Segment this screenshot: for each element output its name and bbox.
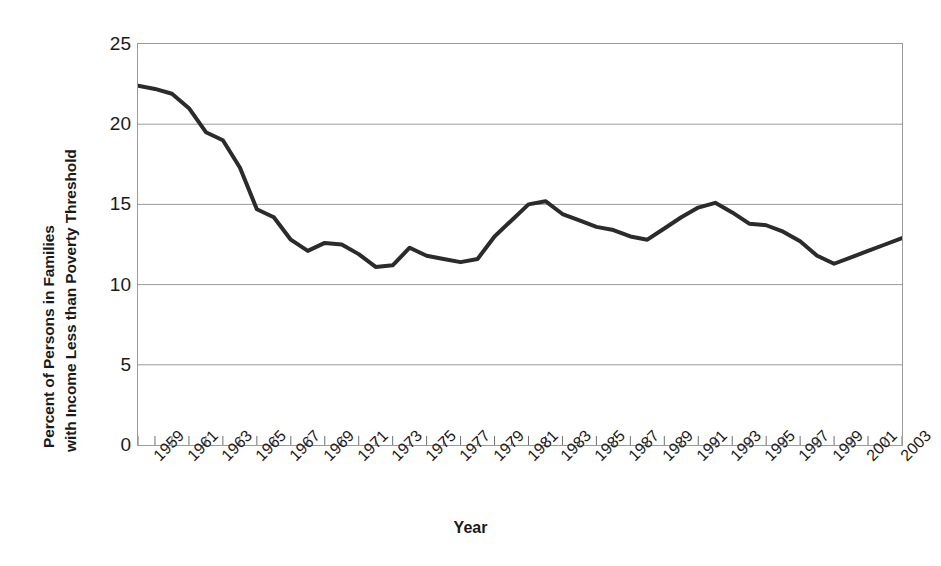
y-axis-tick-label: 10 (95, 274, 131, 296)
x-axis-tick-label: 1981 (524, 452, 537, 465)
x-axis-tick-label: 1987 (625, 452, 638, 465)
x-axis-tick-label: 2003 (897, 452, 910, 465)
x-axis-tick-marks (138, 436, 902, 445)
x-axis-tick-label: 1989 (659, 452, 672, 465)
x-axis-tick-label: 2001 (863, 452, 876, 465)
plot-area (137, 43, 903, 446)
x-axis-tick-label: 1997 (795, 452, 808, 465)
x-axis-tick-label: 1975 (422, 452, 435, 465)
x-axis-tick-label: 1965 (252, 452, 265, 465)
x-axis-tick-label: 1977 (456, 452, 469, 465)
x-axis-tick-label: 1983 (557, 452, 570, 465)
x-axis-tick-label: 1979 (490, 452, 503, 465)
poverty-rate-line-chart: Percent of Persons in Families with Inco… (0, 0, 941, 566)
y-axis-title-line1: Percent of Persons in Families (40, 225, 58, 448)
x-axis-tick-label: 1967 (286, 452, 299, 465)
y-axis-title-line2: with Income Less than Poverty Threshold (62, 149, 80, 452)
x-axis-tick-label: 1985 (591, 452, 604, 465)
y-axis-tick-label: 5 (95, 354, 131, 376)
x-axis-tick-label: 1963 (218, 452, 231, 465)
data-series-line (138, 86, 902, 267)
x-axis-tick-label: 1961 (184, 452, 197, 465)
y-axis-tick-label: 15 (95, 193, 131, 215)
plot-svg (138, 44, 902, 445)
y-axis-title: Percent of Persons in Families with Inco… (0, 0, 70, 460)
x-axis-tick-label: 1995 (761, 452, 774, 465)
x-axis-tick-label: 1999 (829, 452, 842, 465)
y-axis-tick-label: 25 (95, 33, 131, 55)
x-axis-tick-label: 1991 (693, 452, 706, 465)
x-axis-tick-label: 1993 (727, 452, 740, 465)
x-axis-tick-label: 1971 (354, 452, 367, 465)
gridlines (138, 124, 902, 365)
y-axis-tick-labels: 2520151050 (95, 0, 131, 566)
y-axis-tick-label: 0 (95, 434, 131, 456)
x-axis-tick-label: 1969 (320, 452, 333, 465)
x-axis-tick-label: 1973 (388, 452, 401, 465)
x-axis-title: Year (0, 519, 941, 537)
x-axis-tick-label: 1959 (150, 452, 163, 465)
y-axis-tick-label: 20 (95, 113, 131, 135)
